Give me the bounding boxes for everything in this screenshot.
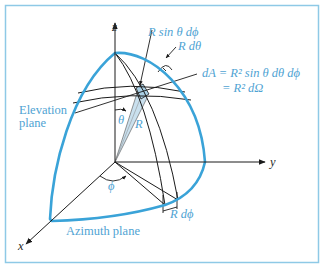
z-axis-label: z	[111, 20, 117, 34]
da-formula-line2: = R² dΩ	[222, 81, 263, 95]
spherical-area-element-diagram: z y x R sin θ dϕ R dθ dA = R² sin θ dθ d…	[0, 0, 325, 268]
r-dtheta-label: R dθ	[177, 39, 201, 53]
x-axis-label: x	[17, 239, 24, 253]
r-sin-theta-dphi-label: R sin θ dϕ	[147, 25, 199, 39]
theta-label: θ	[118, 113, 124, 127]
da-formula-line1: dA = R² sin θ dθ dϕ	[202, 66, 301, 80]
r-dphi-label: R dϕ	[169, 207, 194, 221]
elevation-plane-label-line2: plane	[19, 116, 47, 130]
azimuth-plane-label: Azimuth plane	[66, 224, 140, 238]
radius-label: R	[134, 117, 143, 131]
phi-label: ϕ	[108, 179, 115, 193]
y-axis-label: y	[268, 155, 276, 169]
elevation-plane-label-line1: Elevation	[19, 103, 68, 117]
